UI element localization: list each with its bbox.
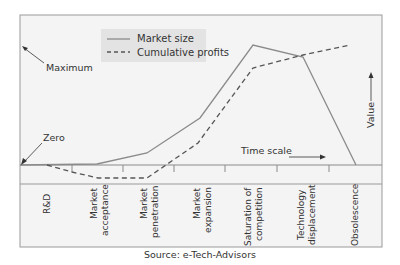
category-rd: R&D <box>42 194 52 214</box>
svg-text:Zero: Zero <box>43 132 65 143</box>
svg-text:Value: Value <box>365 102 376 128</box>
category-market-acceptance-l2: acceptance <box>100 184 110 236</box>
category-market-expansion-l2: expansion <box>203 187 213 233</box>
category-market-acceptance-l1: Market <box>89 188 99 219</box>
category-market-expansion-l1: Market <box>192 188 202 219</box>
category-saturation-l1: Saturation of <box>243 187 253 246</box>
svg-text:Time scale: Time scale <box>240 145 292 156</box>
legend-label-cumulative-profits: Cumulative profits <box>137 47 229 58</box>
category-market-penetration-l2: penetration <box>150 186 160 238</box>
product-lifecycle-chart: Market size Cumulative profits Maximum Z… <box>0 0 400 265</box>
category-technology-l2: displacement <box>307 184 317 245</box>
legend-label-market-size: Market size <box>137 33 194 44</box>
category-technology-l1: Technology <box>296 189 306 241</box>
source-caption: Source: e-Tech-Advisors <box>0 249 400 260</box>
svg-text:Maximum: Maximum <box>46 62 93 73</box>
category-market-penetration-l1: Market <box>139 188 149 219</box>
category-saturation-l2: competition <box>254 187 264 241</box>
category-obsolescence: Obsolescence <box>350 183 360 246</box>
